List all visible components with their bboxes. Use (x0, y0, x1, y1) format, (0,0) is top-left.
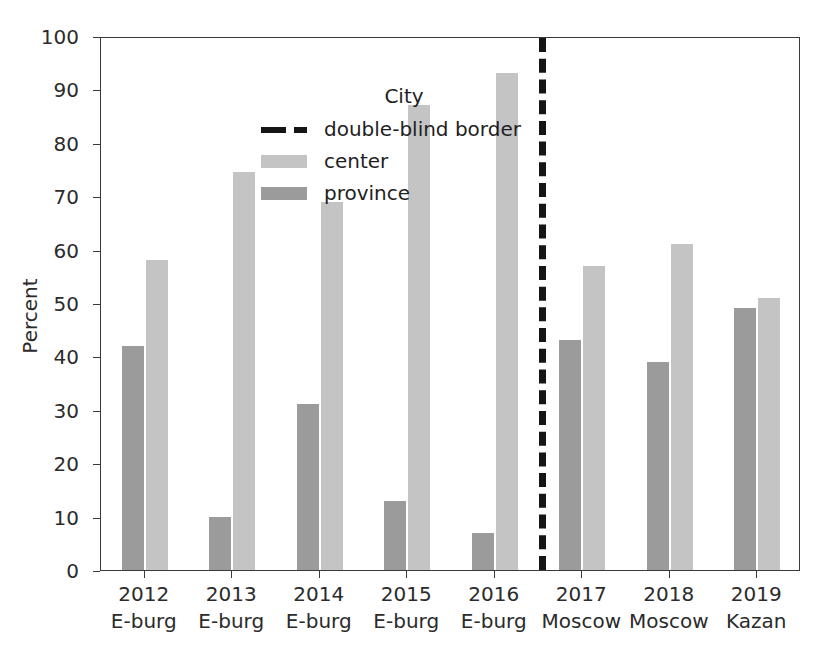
bar-province (209, 517, 231, 570)
legend-entry: double-blind border (261, 113, 591, 145)
bar-center (146, 260, 168, 570)
bar-group (714, 38, 802, 570)
x-tick-mark (756, 571, 757, 578)
y-tick-mark (93, 518, 100, 519)
x-tick-mark (144, 571, 145, 578)
bar-chart-figure: 0102030405060708090100 Percent City doub… (0, 0, 819, 650)
x-tick-mark (319, 571, 320, 578)
y-tick-mark (93, 144, 100, 145)
legend-entry: center (261, 145, 591, 177)
plot-area: City double-blind bordercenterprovince (100, 37, 800, 571)
x-tick-mark (581, 571, 582, 578)
bar-center (583, 266, 605, 570)
bar-province (384, 501, 406, 570)
bar-province (734, 308, 756, 570)
bar-province (472, 533, 494, 570)
bar-province (647, 362, 669, 570)
y-tick-mark (93, 304, 100, 305)
bar-province (122, 346, 144, 570)
y-axis-label: Percent (18, 278, 42, 353)
bar-center (321, 202, 343, 570)
legend-title: City (261, 84, 539, 108)
y-tick-mark (93, 464, 100, 465)
legend-entries: double-blind bordercenterprovince (261, 113, 591, 209)
y-tick-mark (93, 90, 100, 91)
x-tick-year: 2019 (696, 581, 816, 608)
y-tick-mark (93, 251, 100, 252)
bar-center (233, 172, 255, 570)
y-tick-mark (93, 37, 100, 38)
legend-label: center (324, 149, 388, 173)
x-tick-mark (406, 571, 407, 578)
legend-label: province (324, 181, 410, 205)
x-tick-mark (494, 571, 495, 578)
y-tick-mark (93, 411, 100, 412)
y-axis: 0102030405060708090100 (0, 0, 100, 650)
legend-swatch-center (261, 155, 307, 168)
x-tick-label: 2019Kazan (696, 581, 816, 634)
x-tick-city: Kazan (696, 608, 816, 635)
bar-center (758, 298, 780, 570)
bar-group (101, 38, 189, 570)
bar-center (671, 244, 693, 570)
legend: City double-blind bordercenterprovince (261, 84, 591, 209)
bar-province (297, 404, 319, 570)
bar-group (626, 38, 714, 570)
y-tick-mark (93, 357, 100, 358)
y-tick-mark (93, 571, 100, 572)
legend-label: double-blind border (324, 117, 521, 141)
x-tick-mark (231, 571, 232, 578)
legend-swatch-double-blind-border (261, 123, 307, 136)
legend-entry: province (261, 177, 591, 209)
x-tick-mark (669, 571, 670, 578)
y-tick-mark (93, 197, 100, 198)
legend-swatch-province (261, 187, 307, 200)
bar-province (559, 340, 581, 570)
